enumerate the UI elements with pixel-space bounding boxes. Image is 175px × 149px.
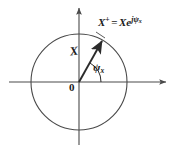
equation-label: X+=Xejψx	[98, 16, 142, 28]
origin-label: 0	[69, 82, 75, 93]
vector-magnitude-label: X	[69, 45, 79, 58]
exponent-subscript: x	[139, 18, 142, 24]
equation-lhs-superscript: +	[105, 15, 109, 24]
phasor-diagram-figure: X 0 ψx X+=Xejψx	[0, 0, 175, 149]
angle-subscript: x	[101, 66, 105, 75]
diagram-canvas	[0, 0, 175, 149]
angle-label: ψx	[93, 62, 104, 74]
equation-exponent: jψx	[131, 15, 142, 24]
angle-symbol: ψ	[93, 61, 100, 73]
equation-operator: =	[111, 16, 117, 28]
